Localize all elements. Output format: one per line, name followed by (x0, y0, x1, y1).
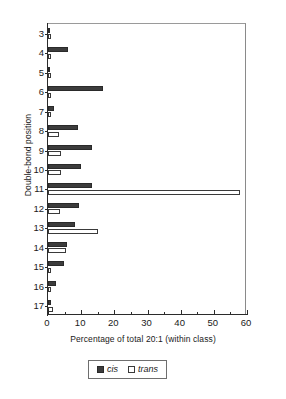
bar-cis (48, 125, 78, 130)
y-axis-title: Double-bond position (23, 75, 33, 235)
bar-trans (48, 112, 51, 117)
legend-label-cis: cis (107, 364, 118, 374)
x-minor-tick-mark (65, 312, 66, 315)
y-tick-label: 3 (39, 29, 44, 39)
y-tick-mark (45, 53, 48, 54)
y-tick-mark (45, 267, 48, 268)
bar-trans (48, 170, 61, 175)
y-tick-label: 4 (39, 48, 44, 58)
x-tick-label: 10 (68, 318, 92, 328)
bar-cis (48, 86, 103, 91)
y-tick-label: 14 (33, 243, 44, 253)
x-tick-label: 50 (201, 318, 225, 328)
bar-group (48, 141, 245, 160)
y-tick-label: 13 (33, 224, 44, 234)
x-tick-label: 40 (168, 318, 192, 328)
trans-swatch-icon (128, 366, 135, 373)
y-tick-mark (45, 306, 48, 307)
bar-cis (48, 106, 54, 111)
bar-cis (48, 300, 51, 305)
plot-area: 34567891011121314151617 (47, 23, 246, 315)
bar-group (48, 238, 245, 257)
y-tick-label: 9 (39, 146, 44, 156)
x-tick-label: 0 (35, 318, 59, 328)
bar-cis (48, 67, 50, 72)
legend-label-trans: trans (138, 364, 158, 374)
y-tick-label: 6 (39, 87, 44, 97)
y-tick-label: 5 (39, 68, 44, 78)
x-minor-tick-mark (98, 312, 99, 315)
bar-trans (48, 190, 240, 195)
x-minor-tick-mark (197, 312, 198, 315)
y-tick-mark (45, 209, 48, 210)
chart-legend: cis trans (88, 360, 167, 379)
bar-cis (48, 222, 75, 227)
x-minor-tick-mark (131, 312, 132, 315)
bar-group (48, 258, 245, 277)
y-tick-mark (45, 73, 48, 74)
bar-group (48, 121, 245, 140)
x-axis-title: Percentage of total 20:1 (within class) (0, 334, 286, 344)
bar-cis (48, 281, 56, 286)
x-tick-mark (247, 310, 248, 315)
x-tick-mark (181, 310, 182, 315)
bar-cis (48, 242, 67, 247)
x-tick-mark (81, 310, 82, 315)
bar-trans (48, 151, 61, 156)
y-tick-label: 10 (33, 165, 44, 175)
bar-trans (48, 93, 51, 98)
y-tick-label: 8 (39, 126, 44, 136)
y-tick-mark (45, 287, 48, 288)
bar-trans (48, 34, 51, 39)
y-tick-label: 15 (33, 263, 44, 273)
y-tick-label: 7 (39, 107, 44, 117)
bar-cis (48, 164, 81, 169)
y-tick-mark (45, 248, 48, 249)
y-tick-label: 16 (33, 282, 44, 292)
bar-cis (48, 183, 92, 188)
bar-trans (48, 54, 51, 59)
bar-trans (48, 268, 51, 273)
y-tick-mark (45, 189, 48, 190)
cis-swatch-icon (97, 366, 104, 373)
bar-trans (48, 73, 51, 78)
bar-group (48, 160, 245, 179)
y-tick-mark (45, 112, 48, 113)
x-minor-tick-mark (230, 312, 231, 315)
y-tick-mark (45, 34, 48, 35)
bar-trans (48, 248, 66, 253)
bar-group (48, 63, 245, 82)
chart-figure: Double-bond position 3456789101112131415… (0, 0, 286, 399)
y-tick-mark (45, 151, 48, 152)
bar-trans (48, 132, 59, 137)
bar-trans (48, 287, 51, 292)
x-tick-mark (214, 310, 215, 315)
bar-group (48, 219, 245, 238)
bar-group (48, 24, 245, 43)
bar-group (48, 277, 245, 296)
bar-trans (48, 229, 98, 234)
bar-group (48, 297, 245, 316)
bar-cis (48, 203, 79, 208)
bar-cis (48, 261, 64, 266)
legend-entry-cis: cis (97, 364, 118, 374)
bar-group (48, 180, 245, 199)
legend-entry-trans: trans (128, 364, 158, 374)
x-tick-mark (148, 310, 149, 315)
y-tick-label: 12 (33, 204, 44, 214)
x-tick-mark (114, 310, 115, 315)
x-minor-tick-mark (164, 312, 165, 315)
bar-group (48, 102, 245, 121)
bar-group (48, 199, 245, 218)
bar-group (48, 43, 245, 62)
bar-group (48, 82, 245, 101)
x-tick-label: 30 (135, 318, 159, 328)
y-tick-label: 11 (34, 185, 44, 195)
x-tick-mark (48, 310, 49, 315)
y-tick-label: 17 (33, 302, 44, 312)
bar-trans (48, 209, 60, 214)
y-tick-mark (45, 170, 48, 171)
bar-cis (48, 47, 68, 52)
y-tick-mark (45, 92, 48, 93)
y-tick-mark (45, 131, 48, 132)
